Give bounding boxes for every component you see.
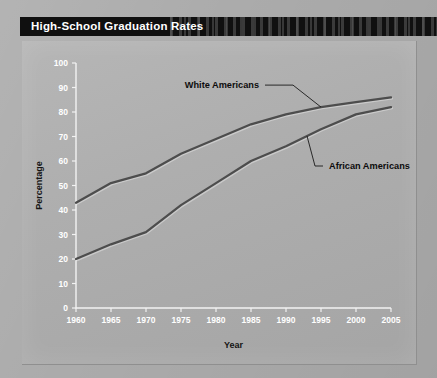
series-line-highlight	[77, 98, 392, 203]
y-tick-label: 100	[54, 58, 68, 68]
x-tick-label: 2005	[382, 315, 401, 325]
y-tick-label: 60	[59, 156, 69, 166]
y-tick-label: 70	[59, 132, 69, 142]
series-line-african-americans	[76, 107, 391, 259]
x-tick-label: 1980	[207, 315, 226, 325]
series-line-white-americans	[76, 97, 391, 202]
chart-title-band: High-School Graduation Rates	[20, 17, 437, 36]
y-tick-label: 30	[59, 230, 69, 240]
screenshot-root: High-School Graduation Rates 01020304050…	[0, 0, 437, 378]
y-tick-label: 40	[59, 205, 69, 215]
y-tick-label: 50	[59, 181, 69, 191]
x-tick-label: 1995	[312, 315, 331, 325]
y-tick-label: 0	[63, 303, 68, 313]
axis-lines	[76, 63, 391, 308]
chart-title: High-School Graduation Rates	[20, 17, 437, 36]
chart-panel: 0102030405060708090100 19601965197019751…	[22, 41, 417, 365]
x-tick-label: 1970	[137, 315, 156, 325]
x-axis-title: Year	[224, 340, 244, 350]
x-tick-label: 1965	[102, 315, 121, 325]
annotation-leader-line	[265, 85, 321, 107]
annotation-leader-line	[307, 136, 323, 166]
y-axis-title: Percentage	[34, 161, 44, 210]
annotation-african-americans: African Americans	[329, 161, 410, 171]
y-tick-label: 80	[59, 107, 69, 117]
y-axis-ticks: 0102030405060708090100	[54, 58, 76, 313]
x-tick-label: 2000	[347, 315, 366, 325]
annotation-white-americans: White Americans	[185, 80, 259, 90]
x-tick-label: 1975	[172, 315, 191, 325]
y-tick-label: 90	[59, 83, 69, 93]
y-tick-label: 20	[59, 254, 69, 264]
x-tick-label: 1990	[277, 315, 296, 325]
x-tick-label: 1960	[67, 315, 86, 325]
series-annotations: White AmericansAfrican Americans	[185, 80, 410, 171]
y-tick-label: 10	[59, 279, 69, 289]
x-axis-ticks: 1960196519701975198019851990199520002005	[67, 308, 401, 325]
series-lines	[76, 97, 392, 260]
line-chart: 0102030405060708090100 19601965197019751…	[22, 41, 416, 364]
x-tick-label: 1985	[242, 315, 261, 325]
